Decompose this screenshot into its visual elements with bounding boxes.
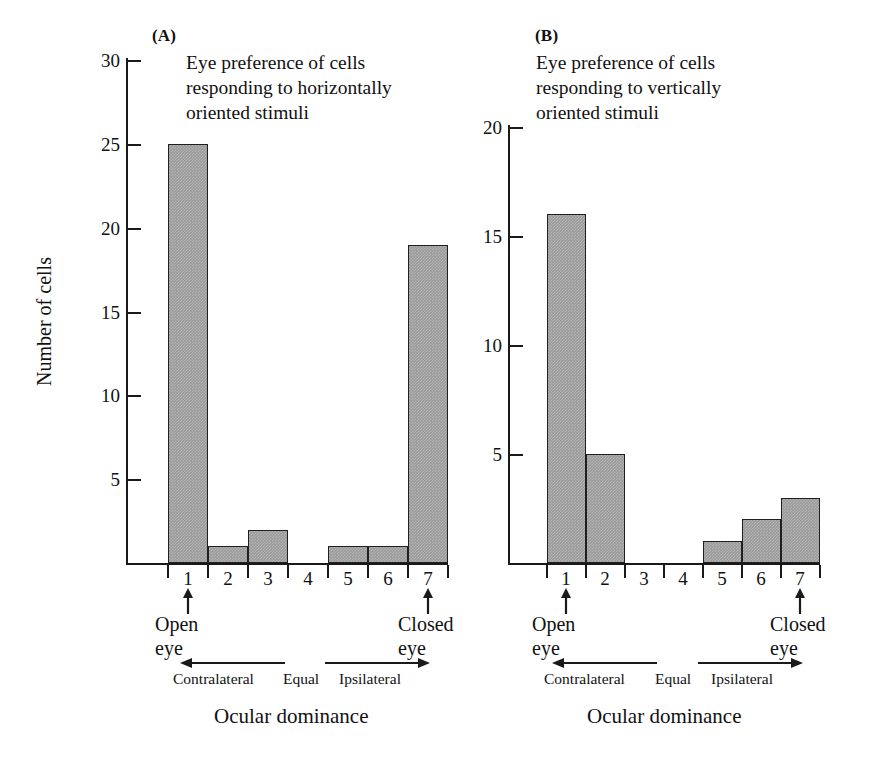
panel-a-xtick-label-2: 2 — [213, 568, 243, 590]
panel-a-bar-2 — [208, 546, 248, 563]
panel-b-closed-eye-arrow-icon — [792, 588, 808, 614]
panel-a-ipsilateral-arrow-icon — [325, 656, 430, 670]
panel-b-ytick-label-5: 5 — [456, 444, 502, 466]
panel-b-equal-label: Equal — [655, 670, 691, 688]
panel-a-ytick-label-15: 15 — [74, 302, 120, 324]
panel-a-ytick-label-30: 30 — [74, 50, 120, 72]
panel-b-contralateral-arrow-icon — [552, 656, 657, 670]
panel-a-ytick-25 — [128, 144, 141, 146]
panel-a-y-axis-label: Number of cells — [33, 242, 56, 402]
panel-b-xtick-label-4: 4 — [668, 568, 698, 590]
panel-b-xtick-6 — [780, 565, 782, 578]
panel-a-xtick-3 — [287, 565, 289, 578]
panel-a-bar-6 — [368, 546, 408, 563]
panel-b-xtick-2 — [624, 565, 626, 578]
panel-a-bar-1 — [168, 144, 208, 563]
panel-b-xtick-3 — [663, 565, 665, 578]
panel-b-xtick-5 — [741, 565, 743, 578]
panel-a-xtick-label-4: 4 — [293, 568, 323, 590]
panel-b-xtick-label-3: 3 — [629, 568, 659, 590]
panel-a-ytick-10 — [128, 395, 141, 397]
panel-b-bar-7 — [781, 498, 820, 563]
panel-a-bar-5 — [328, 546, 368, 563]
panel-b-bar-1 — [547, 214, 586, 563]
panel-b: (B) Eye preference of cells responding t… — [430, 0, 892, 770]
panel-a-x-axis-title: Ocular dominance — [214, 704, 369, 729]
panel-b-open-eye-label: Open eye — [532, 612, 575, 660]
panel-a-open-eye-arrow-icon — [180, 588, 196, 614]
panel-b-ytick-label-10: 10 — [456, 335, 502, 357]
panel-a-caption: Eye preference of cells responding to ho… — [186, 50, 466, 125]
panel-b-ytick-20 — [510, 127, 523, 129]
panel-b-bar-5 — [703, 541, 742, 563]
panel-b-contralateral-label: Contralateral — [544, 670, 625, 688]
panel-a-equal-label: Equal — [283, 670, 319, 688]
panel-a-xtick-2 — [247, 565, 249, 578]
panel-a-ipsilateral-label: Ipsilateral — [339, 670, 401, 688]
panel-a-contralateral-label: Contralateral — [173, 670, 254, 688]
panel-b-ytick-5 — [510, 454, 523, 456]
panel-a: (A) Eye preference of cells responding t… — [0, 0, 470, 770]
panel-b-x-axis-title: Ocular dominance — [587, 704, 742, 729]
panel-a-ytick-30 — [128, 60, 141, 62]
panel-b-ytick-label-20: 20 — [456, 117, 502, 139]
panel-a-label: (A) — [152, 26, 176, 46]
panel-b-caption: Eye preference of cells responding to ve… — [536, 50, 816, 125]
panel-a-ytick-label-5: 5 — [74, 469, 120, 491]
panel-b-xtick-7 — [819, 565, 821, 578]
panel-a-xtick-5 — [367, 565, 369, 578]
panel-b-ytick-10 — [510, 345, 523, 347]
panel-a-xtick-4 — [327, 565, 329, 578]
panel-a-ytick-label-10: 10 — [74, 385, 120, 407]
panel-a-xtick-label-1: 1 — [173, 568, 203, 590]
panel-a-xtick-6 — [407, 565, 409, 578]
panel-b-xtick-1 — [585, 565, 587, 578]
panel-a-ytick-label-20: 20 — [74, 218, 120, 240]
panel-a-contralateral-arrow-icon — [180, 656, 285, 670]
panel-a-xtick-0 — [167, 565, 169, 578]
panel-b-xtick-label-1: 1 — [551, 568, 581, 590]
panel-a-xtick-label-5: 5 — [333, 568, 363, 590]
panel-b-bar-2 — [586, 454, 625, 563]
panel-b-ipsilateral-label: Ipsilateral — [711, 670, 773, 688]
panel-b-xtick-0 — [546, 565, 548, 578]
panel-b-xtick-4 — [702, 565, 704, 578]
panel-a-xtick-label-6: 6 — [373, 568, 403, 590]
panel-a-bar-3 — [248, 530, 288, 563]
panel-b-xtick-label-5: 5 — [707, 568, 737, 590]
panel-a-open-eye-label: Open eye — [155, 612, 198, 660]
panel-a-ytick-label-25: 25 — [74, 134, 120, 156]
panel-b-open-eye-arrow-icon — [558, 588, 574, 614]
panel-b-label: (B) — [535, 26, 558, 46]
panel-b-xtick-label-6: 6 — [746, 568, 776, 590]
panel-b-closed-eye-label: Closed eye — [770, 612, 826, 660]
figure-ocular-dominance: (A) Eye preference of cells responding t… — [0, 0, 892, 770]
panel-a-ytick-15 — [128, 312, 141, 314]
panel-b-ytick-label-15: 15 — [456, 226, 502, 248]
panel-b-ytick-15 — [510, 236, 523, 238]
panel-a-xtick-1 — [207, 565, 209, 578]
panel-a-ytick-5 — [128, 479, 141, 481]
panel-b-ipsilateral-arrow-icon — [698, 656, 803, 670]
panel-b-xtick-label-2: 2 — [590, 568, 620, 590]
panel-b-xtick-label-7: 7 — [785, 568, 815, 590]
panel-a-xtick-label-3: 3 — [253, 568, 283, 590]
panel-a-ytick-20 — [128, 228, 141, 230]
panel-b-bar-6 — [742, 519, 781, 563]
